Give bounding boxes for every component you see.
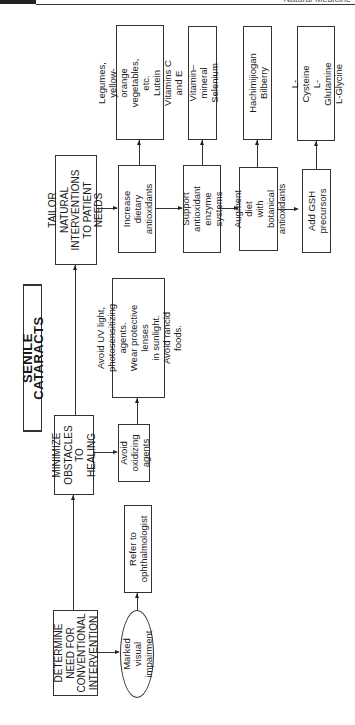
arrow-head [314,141,318,146]
detail-gsh-amino-acids: L-Cysteine L-Glutamine L-Glycine [297,26,335,141]
header-tab [0,0,36,4]
detail-legumes-vitamins: Legumes, yellow-orange vegetables, etc. … [116,25,164,140]
diagram-title: SENILE CATARACTS [22,316,44,399]
detail-vitamin-mineral-selenium: Vitamin–mineral Selenium [188,26,217,140]
action-refer-ophthalmologist: Refer to ophthalmologist [124,505,152,593]
arrow-head [71,495,75,500]
detail-avoid-uv: Avoid UV light, photosensitizing agents.… [112,278,165,398]
step-tailor: TAILOR NATURAL INTERVENTIONS TO PATIENT … [55,155,97,265]
step-minimize: MINIMIZE OBSTACLES TO HEALING [54,415,94,495]
arrow-head [135,593,139,598]
arrow-head [73,265,77,270]
action-add-gsh-precursors: Add GSH precursors [302,169,331,253]
diagram-title-box: SENILE CATARACTS [23,284,42,432]
step-determine: DETERMINE NEED FOR CONVENTIONAL INTERVEN… [53,610,98,696]
action-avoid-oxidizing-agents: Avoid oxidizing agents [118,424,150,482]
arrow-head [135,398,139,403]
condition-marked-visual-impairment: Marked visual impairment [120,610,154,698]
header-rule [36,4,355,5]
action-augment-botanical-antioxidants: Augment diet with botanical antioxidants [239,167,278,251]
arrow-head [200,140,204,145]
detail-hachimijiogan-bilberry: Hachimijiogan Bilberry [243,26,272,140]
arrow-head [137,140,141,145]
action-support-enzyme-systems: Support antioxidant enzyme systems [183,165,221,253]
action-increase-dietary-antioxidants: Increase dietary antioxidants [118,165,156,253]
running-title: Natural Medicine [283,0,351,4]
connector-minimize-tailor [75,265,76,415]
arrow-head [255,140,259,145]
connector-determine-minimize [73,495,74,610]
arrow-head [294,207,299,211]
